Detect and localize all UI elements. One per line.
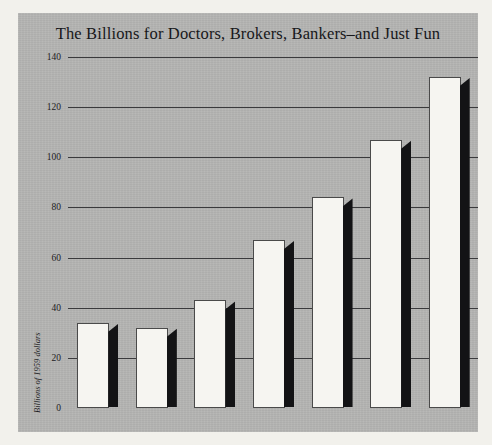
- y-tick-label: 40: [52, 303, 62, 313]
- gridline: [68, 107, 478, 108]
- y-tick-label: 120: [47, 102, 61, 112]
- bar-side-shadow: [167, 329, 177, 407]
- bar: [370, 140, 402, 408]
- bar: [429, 77, 461, 408]
- bar: [194, 300, 226, 408]
- y-tick-label: 0: [56, 403, 61, 413]
- gridline: [68, 57, 478, 58]
- y-tick-label: 140: [47, 52, 61, 62]
- gridline: [68, 207, 478, 208]
- plot-area: 020406080100120140 19291940194719531959 …: [68, 57, 478, 408]
- chart-title: The Billions for Doctors, Brokers, Banke…: [18, 24, 478, 44]
- y-axis-title: Billions of 1959 dollars: [32, 332, 42, 413]
- bar: [253, 240, 285, 408]
- bar-side-shadow: [284, 241, 294, 407]
- gridline: [68, 157, 478, 158]
- chart-panel: The Billions for Doctors, Brokers, Banke…: [18, 13, 478, 432]
- y-tick-label: 100: [47, 152, 61, 162]
- bar: [136, 328, 168, 408]
- bar-side-shadow: [460, 78, 470, 407]
- y-tick-label: 20: [52, 353, 62, 363]
- bar: [312, 197, 344, 408]
- bar-side-shadow: [401, 141, 411, 407]
- y-tick-label: 60: [52, 253, 62, 263]
- bar-side-shadow: [343, 198, 353, 407]
- chart-figure: The Billions for Doctors, Brokers, Banke…: [0, 0, 492, 445]
- bar-side-shadow: [225, 301, 235, 407]
- bar: [77, 323, 109, 408]
- y-tick-label: 80: [52, 202, 62, 212]
- bar-side-shadow: [108, 324, 118, 407]
